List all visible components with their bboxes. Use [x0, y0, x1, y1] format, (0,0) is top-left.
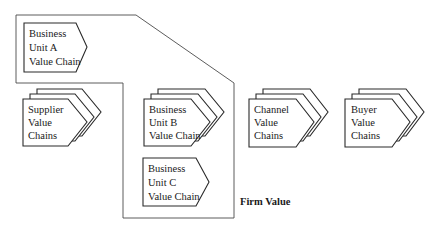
node-label-line-3: Value Chain: [29, 56, 81, 67]
firm-value-label: Firm Value: [240, 196, 291, 207]
node-label-line-3: Value Chain: [149, 130, 201, 141]
node-label-line-1: Business: [149, 104, 186, 115]
node-label-line-1: Buyer: [351, 104, 377, 115]
value-system-diagram: Business Unit A Value Chain Supplier Val…: [0, 0, 437, 232]
node-label-line-2: Value: [254, 117, 278, 128]
node-label-line-1: Business: [29, 28, 66, 39]
node-buyer-value-chains: Buyer Value Chains: [345, 89, 424, 147]
node-label-line-3: Chains: [351, 130, 380, 141]
node-label-line-3: Value Chain: [148, 191, 200, 202]
node-label-line-1: Supplier: [28, 104, 64, 115]
node-label-line-3: Chains: [254, 130, 283, 141]
node-label-line-2: Unit C: [148, 177, 176, 188]
node-label-line-2: Unit B: [149, 117, 177, 128]
node-label-line-1: Business: [148, 163, 185, 174]
node-label-line-2: Unit A: [29, 42, 58, 53]
node-channel-value-chains: Channel Value Chains: [249, 89, 328, 147]
node-supplier-value-chains: Supplier Value Chains: [23, 89, 101, 146]
node-label-line-2: Value: [351, 117, 375, 128]
node-business-unit-a: Business Unit A Value Chain: [24, 23, 87, 72]
node-label-line-1: Channel: [254, 104, 289, 115]
node-business-unit-c: Business Unit C Value Chain: [143, 158, 209, 206]
node-label-line-2: Value: [28, 117, 52, 128]
node-label-line-3: Chains: [28, 130, 57, 141]
node-business-unit-b: Business Unit B Value Chain: [144, 89, 224, 146]
